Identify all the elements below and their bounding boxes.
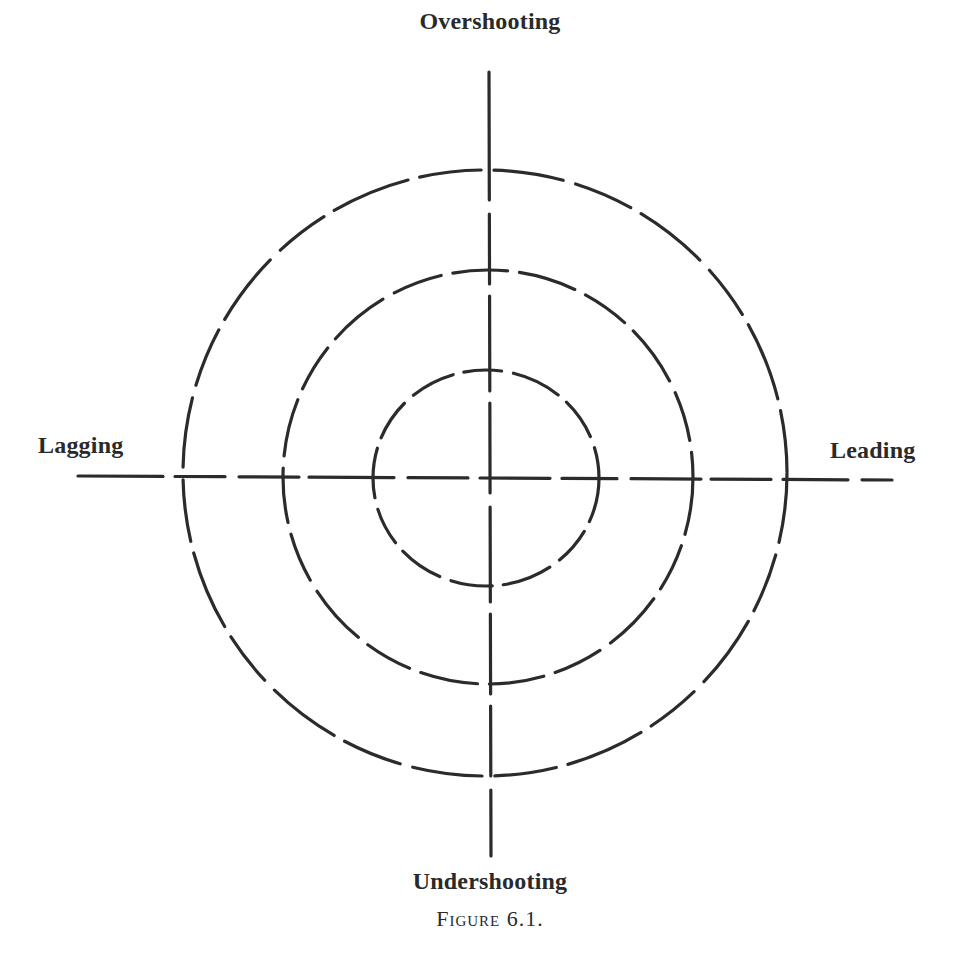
target-diagram: [0, 0, 960, 964]
overshooting-label: Overshooting: [0, 8, 960, 35]
vertical-axis: [489, 72, 491, 856]
lagging-label: Lagging: [38, 432, 123, 459]
outer-ring: [183, 170, 787, 776]
leading-label: Leading: [830, 437, 915, 464]
undershooting-label: Undershooting: [0, 868, 960, 895]
figure-caption: Figure 6.1.: [0, 906, 960, 932]
horizontal-axis: [78, 476, 892, 480]
